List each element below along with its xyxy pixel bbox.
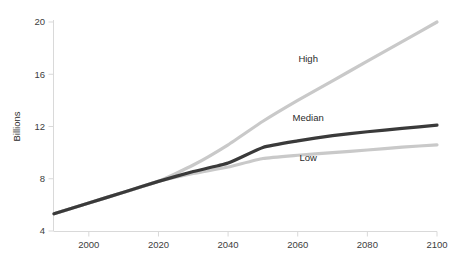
x-tick-label: 2000 [78, 239, 99, 250]
series-annotations: HighMedianLow [293, 53, 324, 163]
series-line-median [54, 125, 437, 214]
x-tick-label: 2080 [357, 239, 378, 250]
series-label-low: Low [299, 152, 317, 163]
y-tick-label: 4 [40, 225, 45, 236]
x-tick-label: 2060 [287, 239, 308, 250]
x-tick-label: 2040 [218, 239, 239, 250]
series-label-high: High [298, 53, 318, 64]
line-chart: 48121620 200020202040206020802100 Billio… [0, 0, 450, 265]
x-tick-label: 2100 [426, 239, 447, 250]
chart-canvas: 48121620 200020202040206020802100 Billio… [0, 0, 450, 265]
y-axis-title: Billions [11, 111, 22, 141]
y-axis-ticks: 48121620 [34, 16, 53, 236]
y-tick-label: 8 [40, 173, 45, 184]
y-tick-label: 20 [34, 16, 45, 27]
y-tick-label: 12 [34, 121, 45, 132]
series-label-median: Median [293, 112, 324, 123]
x-tick-label: 2020 [148, 239, 169, 250]
y-tick-label: 16 [34, 69, 45, 80]
series-lines [54, 22, 437, 214]
x-axis-ticks: 200020202040206020802100 [78, 232, 447, 251]
series-line-high [54, 22, 437, 214]
